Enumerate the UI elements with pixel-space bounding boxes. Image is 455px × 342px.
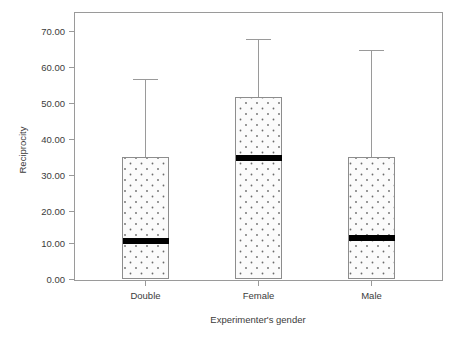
box-group-double: [123, 80, 169, 279]
chart-canvas: 70.00 60.00 50.00 40.00 30.00 20.00 10.0…: [0, 0, 455, 342]
x-tick-label-male: Male: [361, 290, 382, 301]
y-tick-label-10: 10.00: [41, 238, 65, 249]
y-tick-label-20: 20.00: [41, 206, 65, 217]
box-group-female: [236, 40, 282, 279]
box-male: [349, 158, 395, 279]
x-axis: Double Female Male: [130, 281, 381, 302]
y-tick-label-50: 50.00: [41, 98, 65, 109]
y-tick-label-70: 70.00: [41, 26, 65, 37]
y-tick-label-40: 40.00: [41, 134, 65, 145]
y-axis-title: Reciprocity: [17, 126, 28, 173]
box-double: [123, 158, 169, 279]
box-female: [236, 98, 282, 279]
y-tick-label-0: 0.00: [47, 274, 66, 285]
box-group-male: [349, 51, 395, 279]
boxplot-chart: 70.00 60.00 50.00 40.00 30.00 20.00 10.0…: [0, 0, 455, 342]
x-tick-label-female: Female: [243, 290, 275, 301]
y-axis: 70.00 60.00 50.00 40.00 30.00 20.00 10.0…: [41, 26, 74, 285]
y-tick-label-60: 60.00: [41, 62, 65, 73]
x-axis-title: Experimenter's gender: [210, 314, 305, 325]
x-tick-label-double: Double: [130, 290, 160, 301]
y-tick-label-30: 30.00: [41, 170, 65, 181]
